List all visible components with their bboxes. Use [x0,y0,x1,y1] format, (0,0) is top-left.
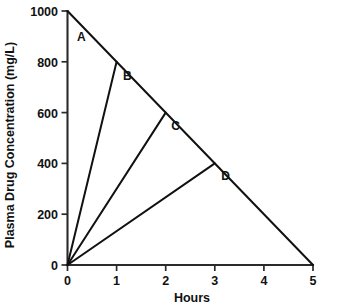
absorption-line-b [68,62,117,265]
x-tick-label-0: 0 [64,274,71,288]
pharmacokinetics-chart: 1000 800 600 400 200 0 0 1 2 3 4 5 A B C [0,0,338,308]
absorption-line-c [68,113,166,265]
x-tick-label-1: 1 [113,274,120,288]
x-tick-label-5: 5 [310,274,317,288]
y-tick-label-1000: 1000 [30,5,58,19]
series-label-c: C [171,119,180,133]
elimination-line [68,11,314,265]
data-series-group [68,11,314,265]
x-tick-label-4: 4 [260,274,267,288]
y-tick-label-800: 800 [37,56,58,70]
series-label-b: B [123,69,132,83]
x-tick-label-2: 2 [162,274,169,288]
y-axis-title: Plasma Drug Concentration (mg/L) [3,42,17,248]
absorption-line-d [68,163,215,265]
x-tick-label-3: 3 [211,274,218,288]
y-tick-label-0: 0 [51,259,58,273]
y-tick-label-600: 600 [37,107,58,121]
series-label-d: D [221,169,230,183]
chart-svg: 1000 800 600 400 200 0 0 1 2 3 4 5 A B C [0,0,338,308]
series-label-a: A [77,30,86,44]
y-tick-label-200: 200 [37,208,58,222]
series-annotations: A B C D [77,30,230,183]
y-tick-label-400: 400 [37,157,58,171]
x-axis-title: Hours [174,291,210,305]
